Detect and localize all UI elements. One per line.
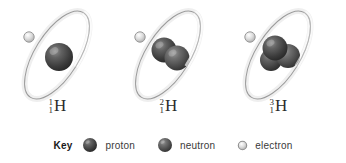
neutron-sphere-icon — [157, 137, 173, 153]
isotope-numbers: 2 1 — [160, 98, 165, 114]
atom-deuterium: 2 1 H — [111, 0, 226, 130]
proton-sphere-icon — [82, 137, 98, 153]
isotope-diagram: 1 1 H — [0, 0, 346, 163]
electron-tritium — [245, 32, 255, 42]
isotope-numbers: 3 1 — [270, 98, 275, 114]
atomic-number: 1 — [270, 106, 275, 114]
isotope-numbers: 1 1 — [49, 98, 54, 114]
legend-label-electron: electron — [255, 140, 292, 151]
electron-circle-icon — [245, 32, 255, 42]
isotope-label-protium: 1 1 H — [0, 96, 115, 116]
atomic-number: 1 — [160, 106, 165, 114]
neutron-sphere-icon — [165, 46, 190, 71]
legend-item-electron: electron — [237, 140, 292, 151]
electron-circle-icon — [135, 32, 145, 42]
element-symbol: H — [275, 96, 287, 116]
electron-circle-icon — [24, 32, 34, 42]
element-symbol: H — [165, 96, 177, 116]
isotope-label-tritium: 3 1 H — [221, 96, 336, 116]
legend: Key proton — [0, 132, 346, 158]
nucleus-deuterium — [152, 38, 190, 71]
legend-label-neutron: neutron — [180, 140, 215, 151]
electron-protium — [24, 32, 34, 42]
proton-sphere-icon — [263, 36, 288, 61]
atom-protium: 1 1 H — [0, 0, 115, 130]
electron-deuterium — [135, 32, 145, 42]
legend-label-proton: proton — [105, 140, 135, 151]
electron-circle-icon — [237, 140, 248, 151]
atomic-number: 1 — [49, 106, 54, 114]
legend-title: Key — [53, 140, 72, 151]
nucleus-protium — [45, 43, 73, 71]
legend-item-neutron: neutron — [157, 137, 215, 153]
isotope-label-deuterium: 2 1 H — [111, 96, 226, 116]
element-symbol: H — [54, 96, 66, 116]
legend-item-proton: proton — [82, 137, 135, 153]
proton-sphere-icon — [45, 43, 73, 71]
atom-tritium: 3 1 H — [221, 0, 336, 130]
nucleus-tritium — [260, 36, 300, 72]
